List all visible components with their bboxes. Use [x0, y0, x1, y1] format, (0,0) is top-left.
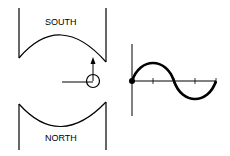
north-label: NORTH: [45, 133, 77, 143]
south-label: SOUTH: [45, 17, 77, 27]
south-pole: SOUTH: [19, 8, 106, 62]
arrow-up-icon: [91, 57, 96, 64]
sine-wave-graph: [129, 44, 216, 116]
generator-diagram: SOUTH NORTH: [0, 0, 230, 156]
origin-dot: [129, 78, 135, 84]
conductor-loop: [62, 57, 100, 88]
north-pole: NORTH: [19, 102, 106, 150]
